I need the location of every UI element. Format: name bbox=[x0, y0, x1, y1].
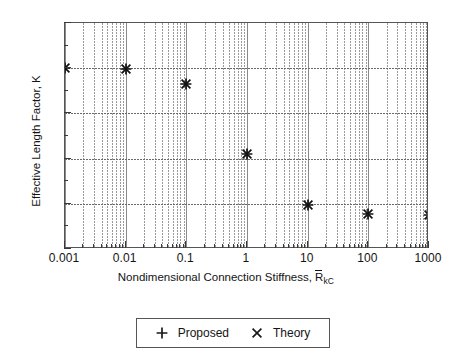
gridline-minor-x bbox=[180, 23, 181, 247]
x-tick-minor bbox=[365, 244, 366, 248]
x-tick-minor bbox=[336, 244, 337, 248]
x-tick-label: 10 bbox=[300, 251, 314, 265]
x-tick-minor bbox=[176, 244, 177, 248]
x-tick-label: 0.001 bbox=[49, 251, 80, 265]
gridline-minor-x bbox=[234, 23, 235, 247]
x-tick-minor bbox=[204, 244, 205, 248]
y-tick-minor bbox=[64, 180, 68, 181]
x-tick-major bbox=[367, 241, 368, 248]
x-tick-minor bbox=[358, 244, 359, 248]
gridline-minor-x bbox=[120, 23, 121, 247]
x-tick-minor bbox=[415, 244, 416, 248]
gridline-minor-x bbox=[420, 23, 421, 247]
x-tick-minor bbox=[119, 244, 120, 248]
gridline-minor-x bbox=[411, 23, 412, 247]
x-tick-minor bbox=[243, 244, 244, 248]
x-tick-minor bbox=[283, 244, 284, 248]
x-tick-minor bbox=[425, 244, 426, 248]
gridline-major-x bbox=[186, 23, 187, 247]
gridline-minor-x bbox=[116, 23, 117, 247]
x-tick-minor bbox=[167, 244, 168, 248]
x-tick-major bbox=[428, 241, 429, 248]
gridline-minor-x bbox=[173, 23, 174, 247]
x-tick-minor bbox=[396, 244, 397, 248]
y-tick-minor bbox=[64, 90, 68, 91]
gridline-major-y bbox=[65, 204, 427, 205]
gridline-minor-x bbox=[229, 23, 230, 247]
x-tick-minor bbox=[172, 244, 173, 248]
x-tick-minor bbox=[237, 244, 238, 248]
gridline-minor-x bbox=[405, 23, 406, 247]
x-tick-minor bbox=[404, 244, 405, 248]
chart-legend: ProposedTheory bbox=[136, 318, 330, 348]
gridline-minor-x bbox=[276, 23, 277, 247]
x-tick-minor bbox=[143, 244, 144, 248]
gridline-minor-x bbox=[215, 23, 216, 247]
gridline-minor-x bbox=[302, 23, 303, 247]
x-axis-title-subscript: kC bbox=[323, 276, 334, 286]
gridline-minor-x bbox=[326, 23, 327, 247]
x-tick-minor bbox=[419, 244, 420, 248]
plus-marker-icon bbox=[156, 327, 169, 340]
x-tick-minor bbox=[154, 244, 155, 248]
gridline-major-x bbox=[247, 23, 248, 247]
x-tick-minor bbox=[233, 244, 234, 248]
gridline-minor-x bbox=[397, 23, 398, 247]
x-tick-minor bbox=[240, 244, 241, 248]
gridline-minor-x bbox=[155, 23, 156, 247]
x-tick-major bbox=[125, 241, 126, 248]
x-tick-minor bbox=[111, 244, 112, 248]
x-tick-label: 1 bbox=[243, 251, 250, 265]
x-tick-minor bbox=[293, 244, 294, 248]
y-tick-major bbox=[64, 158, 71, 159]
x-tick-minor bbox=[106, 244, 107, 248]
gridline-minor-x bbox=[83, 23, 84, 247]
gridline-minor-x bbox=[94, 23, 95, 247]
x-tick-major bbox=[246, 241, 247, 248]
gridline-minor-x bbox=[238, 23, 239, 247]
chart-figure: 0.0010.010.11101001000 2.533.544.55 Nond… bbox=[0, 0, 452, 363]
x-tick-minor bbox=[82, 244, 83, 248]
x-tick-minor bbox=[115, 244, 116, 248]
y-tick-minor bbox=[64, 225, 68, 226]
gridline-minor-x bbox=[244, 23, 245, 247]
x-tick-label: 0.1 bbox=[177, 251, 194, 265]
y-tick-major bbox=[64, 22, 71, 23]
gridline-minor-x bbox=[265, 23, 266, 247]
x-tick-minor bbox=[93, 244, 94, 248]
gridline-minor-x bbox=[289, 23, 290, 247]
x-tick-label: 100 bbox=[357, 251, 377, 265]
x-tick-minor bbox=[288, 244, 289, 248]
y-tick-major bbox=[64, 67, 71, 68]
x-axis-title-text: Nondimensional Connection Stiffness, bbox=[118, 271, 312, 283]
gridline-minor-x bbox=[350, 23, 351, 247]
x-tick-minor bbox=[304, 244, 305, 248]
cross-marker-icon bbox=[251, 327, 264, 340]
x-tick-minor bbox=[343, 244, 344, 248]
gridline-minor-x bbox=[112, 23, 113, 247]
x-tick-minor bbox=[161, 244, 162, 248]
gridline-minor-x bbox=[305, 23, 306, 247]
gridline-minor-x bbox=[205, 23, 206, 247]
gridline-minor-x bbox=[107, 23, 108, 247]
y-tick-minor bbox=[64, 45, 68, 46]
y-axis-title: Effective Length Factor, K bbox=[30, 26, 42, 256]
x-tick-minor bbox=[349, 244, 350, 248]
x-tick-minor bbox=[275, 244, 276, 248]
gridline-minor-x bbox=[123, 23, 124, 247]
x-tick-major bbox=[185, 241, 186, 248]
x-tick-major bbox=[307, 241, 308, 248]
x-axis-title: Nondimensional Connection Stiffness, RkC bbox=[0, 270, 452, 286]
x-tick-minor bbox=[101, 244, 102, 248]
x-tick-minor bbox=[361, 244, 362, 248]
gridline-minor-x bbox=[284, 23, 285, 247]
gridline-minor-x bbox=[223, 23, 224, 247]
gridline-minor-x bbox=[387, 23, 388, 247]
gridline-minor-x bbox=[416, 23, 417, 247]
gridline-major-x bbox=[126, 23, 127, 247]
y-tick-major bbox=[64, 112, 71, 113]
y-tick-major bbox=[64, 203, 71, 204]
x-tick-minor bbox=[222, 244, 223, 248]
gridline-minor-x bbox=[144, 23, 145, 247]
x-tick-label: 1000 bbox=[414, 251, 441, 265]
